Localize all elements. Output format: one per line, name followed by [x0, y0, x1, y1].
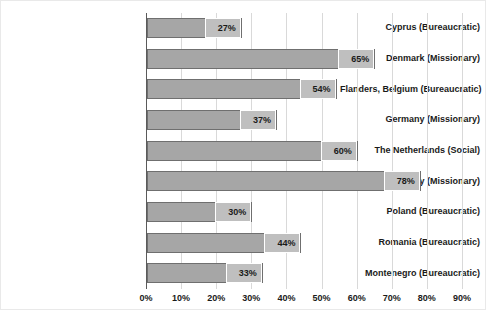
- tick-label: 40%: [266, 293, 306, 303]
- bar-value-label: 60%: [321, 141, 357, 161]
- tick-label: 30%: [231, 293, 271, 303]
- plot-area: 27%65%54%37%60%78%30%44%33%: [146, 13, 462, 289]
- bar-row: 54%: [146, 74, 462, 105]
- gridline: [462, 13, 463, 289]
- bar-row: 37%: [146, 105, 462, 136]
- bar-value-label: 78%: [384, 171, 420, 191]
- bar-row: 33%: [146, 258, 462, 289]
- bar-value-label: 54%: [300, 79, 336, 99]
- bar-value-label: 30%: [215, 202, 251, 222]
- bar-value-label: 65%: [338, 49, 374, 69]
- bar-row: 30%: [146, 197, 462, 228]
- bar-value-label: 37%: [240, 110, 276, 130]
- bar-row: 65%: [146, 44, 462, 75]
- tick-label: 50%: [302, 293, 342, 303]
- tick-label: 20%: [196, 293, 236, 303]
- bar[interactable]: [147, 171, 421, 191]
- tick-label: 80%: [407, 293, 447, 303]
- bar-value-label: 33%: [226, 263, 262, 283]
- bar-row: 78%: [146, 166, 462, 197]
- bar-value-label: 27%: [205, 18, 241, 38]
- bar-value-label: 44%: [264, 233, 300, 253]
- tick-label: 0%: [126, 293, 166, 303]
- tick-label: 70%: [372, 293, 412, 303]
- bar-row: 60%: [146, 136, 462, 167]
- tick-label: 60%: [337, 293, 377, 303]
- bar-row: 27%: [146, 13, 462, 44]
- tick-label: 10%: [161, 293, 201, 303]
- bar-row: 44%: [146, 228, 462, 259]
- bar-chart: Cyprus (Bureaucratic)Denmark (Missionary…: [0, 0, 486, 310]
- tick-label: 90%: [442, 293, 482, 303]
